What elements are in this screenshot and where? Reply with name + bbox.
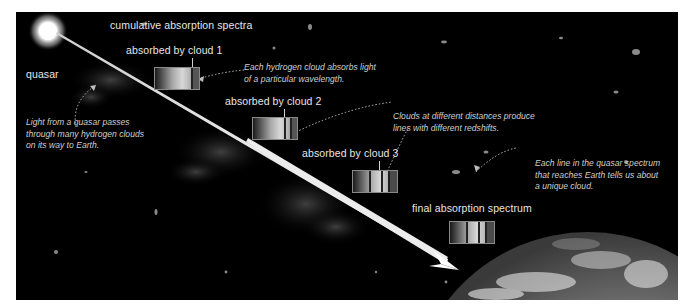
spectrum-cloud-3 bbox=[352, 170, 398, 193]
absorbed-region bbox=[292, 118, 297, 139]
annotation-light-path: Light from a quasar passes through many … bbox=[26, 117, 144, 152]
annotation-line: Each line in the quasar spectrum bbox=[535, 158, 660, 170]
absorbed-region bbox=[193, 68, 199, 89]
absorption-line bbox=[369, 171, 371, 192]
spectrum-cloud-1 bbox=[154, 67, 200, 90]
absorption-line bbox=[284, 118, 286, 139]
spectrum-3-label: absorbed by cloud 3 bbox=[302, 147, 398, 159]
annotation-line: Each hydrogen cloud absorbs light bbox=[244, 62, 376, 74]
absorption-line bbox=[381, 171, 383, 192]
absorption-line bbox=[478, 222, 480, 243]
absorption-line bbox=[466, 222, 468, 243]
quasar-core bbox=[39, 22, 57, 40]
diagram-panel: cumulative absorption spectra quasar abs… bbox=[16, 12, 678, 300]
annotation-line: of a particular wavelength. bbox=[244, 74, 376, 86]
annotation-line: Clouds at different distances produce bbox=[393, 111, 535, 123]
spectrum-1-tick bbox=[192, 58, 193, 67]
annotation-redshifts: Clouds at different distances produce li… bbox=[393, 111, 535, 134]
spectrum-2-label: absorbed by cloud 2 bbox=[225, 95, 321, 107]
quasar-label: quasar bbox=[26, 68, 59, 80]
annotation-line: that reaches Earth tells us about bbox=[535, 170, 660, 182]
annotation-line: a unique cloud. bbox=[535, 181, 660, 193]
annotation-line: lines with different redshifts. bbox=[393, 123, 535, 135]
spectrum-cloud-2 bbox=[252, 117, 298, 140]
annotation-line: on its way to Earth. bbox=[26, 140, 144, 152]
absorbed-region bbox=[390, 171, 397, 192]
annotation-line: through many hydrogen clouds bbox=[26, 129, 144, 141]
annotation-cloud-absorbs: Each hydrogen cloud absorbs light of a p… bbox=[244, 62, 376, 85]
absorbed-region bbox=[487, 222, 494, 243]
spectrum-final bbox=[449, 221, 495, 244]
diagram-title: cumulative absorption spectra bbox=[110, 19, 252, 31]
final-spectrum-label: final absorption spectrum bbox=[412, 202, 532, 214]
spectrum-2-tick bbox=[284, 109, 285, 117]
spectrum-3-tick bbox=[379, 161, 380, 170]
spectrum-1-label: absorbed by cloud 1 bbox=[126, 44, 222, 56]
annotation-unique-cloud: Each line in the quasar spectrum that re… bbox=[535, 158, 660, 193]
annotation-line: Light from a quasar passes bbox=[26, 117, 144, 129]
